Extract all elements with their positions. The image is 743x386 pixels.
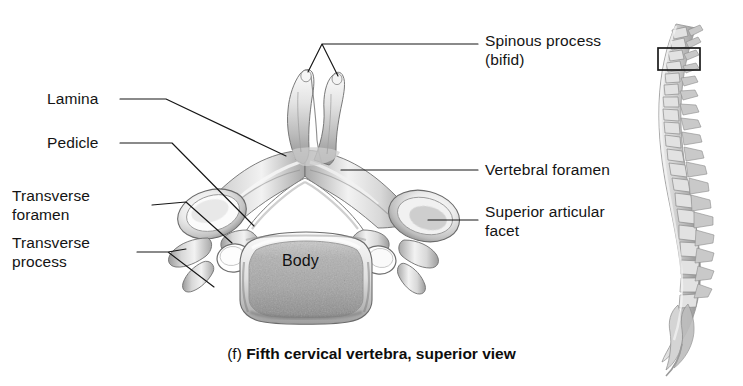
caption-letter: (f) bbox=[227, 345, 242, 362]
label-superior-articular-facet: Superior articular facet bbox=[485, 202, 605, 240]
label-transverse-process: Transverse process bbox=[12, 233, 90, 271]
label-body: Body bbox=[282, 251, 319, 270]
label-pedicle: Pedicle bbox=[47, 133, 99, 152]
vertebra-illustration bbox=[0, 0, 743, 386]
caption-text: Fifth cervical vertebra, superior view bbox=[246, 345, 516, 362]
figure-caption: (f) Fifth cervical vertebra, superior vi… bbox=[0, 345, 743, 363]
label-spinous-process: Spinous process (bifid) bbox=[485, 31, 601, 69]
anatomy-figure: Spinous process (bifid) Lamina Pedicle T… bbox=[0, 0, 743, 386]
label-transverse-foramen: Transverse foramen bbox=[12, 186, 90, 224]
superior-articular-facet-right bbox=[383, 183, 465, 249]
vertebral-column-inset bbox=[658, 24, 714, 376]
leader-spinous-process bbox=[308, 44, 478, 76]
label-lamina: Lamina bbox=[47, 89, 98, 108]
label-vertebral-foramen: Vertebral foramen bbox=[485, 160, 610, 179]
leader-lamina bbox=[120, 99, 286, 156]
